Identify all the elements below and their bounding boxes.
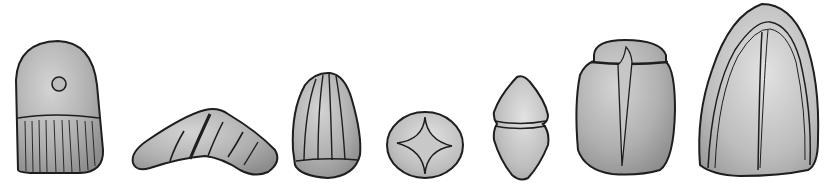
perforated-rounded-stone [16, 41, 103, 173]
artifact-drawing [0, 0, 837, 189]
artifact-illustration [0, 0, 837, 189]
scarab-shaped-stone [576, 40, 675, 175]
grooved-cone-stone [293, 73, 361, 178]
double-cone-stone [494, 76, 549, 179]
hole [52, 77, 66, 91]
large-dome-stone [699, 4, 818, 176]
round-disc-stone [387, 112, 463, 178]
boomerang-shaped-stone [133, 109, 278, 174]
